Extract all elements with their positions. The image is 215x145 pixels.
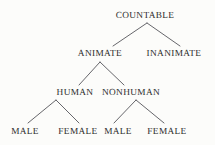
tree-node-nonhuman: NONHUMAN — [102, 88, 160, 98]
tree-node-nonhuman-male: MALE — [104, 127, 132, 137]
tree-node-human: HUMAN — [57, 88, 94, 98]
tree-node-human-female: FEMALE — [58, 127, 97, 137]
tree-node-animate: ANIMATE — [78, 49, 122, 59]
edge-human-male — [28, 100, 56, 123]
feature-tree-diagram: COUNTABLE ANIMATE INANIMATE HUMAN NONHUM… — [0, 0, 215, 145]
tree-node-inanimate: INANIMATE — [147, 49, 202, 59]
tree-edges-layer — [0, 0, 215, 145]
edge-animate-nonhuman — [100, 62, 124, 85]
tree-node-nonhuman-female: FEMALE — [147, 127, 186, 137]
tree-node-human-male: MALE — [11, 127, 39, 137]
edge-nonhuman-male — [114, 100, 136, 123]
edge-countable-animate — [113, 23, 147, 46]
edge-countable-inanimate — [147, 23, 180, 46]
edge-animate-human — [79, 62, 100, 85]
edge-nonhuman-female — [136, 100, 164, 123]
tree-node-countable: COUNTABLE — [116, 11, 175, 21]
edge-human-female — [56, 100, 79, 123]
